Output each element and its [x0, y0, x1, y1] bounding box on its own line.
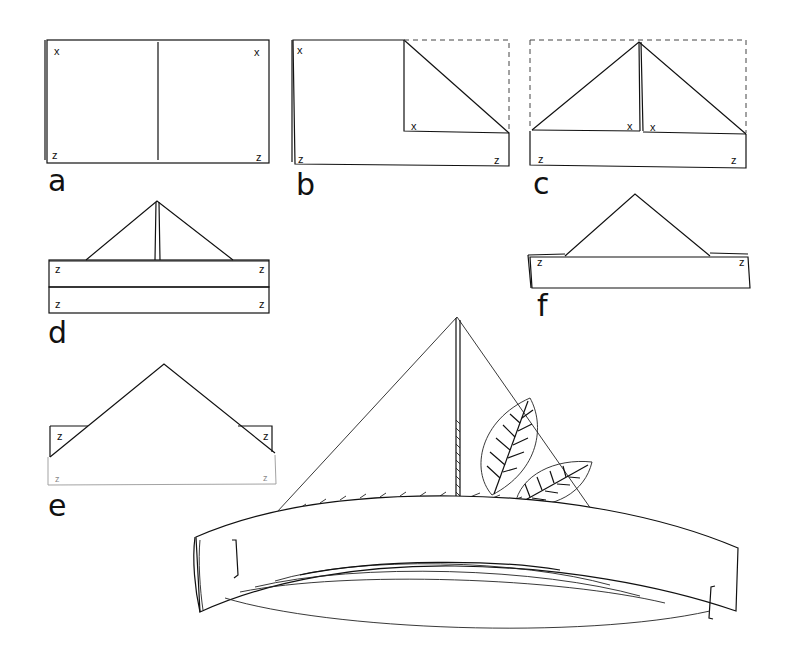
mark-z: z: [57, 430, 63, 442]
mark-z: z: [259, 298, 265, 310]
mark-z: z: [494, 154, 500, 166]
mark-z-faint: z: [55, 474, 60, 484]
mark-z: z: [256, 151, 262, 163]
mark-z: z: [538, 153, 544, 165]
leaf-icon: [481, 398, 538, 495]
step-label-a: a: [48, 163, 66, 198]
mark-x: x: [650, 121, 656, 133]
step-label-c: c: [533, 166, 550, 201]
mark-x: x: [54, 45, 60, 57]
mark-x: x: [627, 120, 633, 132]
step-label-d: d: [48, 315, 67, 350]
mark-z: z: [739, 256, 745, 268]
step-e-diagram: z z z z e: [48, 364, 276, 523]
mark-z: z: [731, 154, 737, 166]
step-label-f: f: [537, 288, 549, 323]
mark-z-faint: z: [263, 473, 268, 483]
step-c-diagram: x x z z c: [530, 40, 746, 201]
mark-x: x: [254, 46, 260, 58]
step-a-diagram: x x z z a: [45, 40, 269, 198]
step-f-diagram: z z f: [528, 194, 750, 323]
mark-z: z: [55, 298, 61, 310]
step-b-diagram: x x z z b: [292, 40, 509, 202]
step-label-e: e: [48, 488, 66, 523]
mark-z: z: [537, 256, 543, 268]
mark-x: x: [411, 120, 417, 132]
mark-z: z: [263, 430, 269, 442]
folding-diagram: x x z z a x x z z b x x z z c z z: [0, 0, 788, 657]
step-label-b: b: [296, 167, 315, 202]
step-d-diagram: z z z z d: [48, 201, 269, 350]
mark-z: z: [259, 263, 265, 275]
mark-z: z: [55, 263, 61, 275]
mark-z: z: [52, 149, 58, 161]
mark-z: z: [298, 153, 304, 165]
mark-x: x: [297, 44, 303, 56]
